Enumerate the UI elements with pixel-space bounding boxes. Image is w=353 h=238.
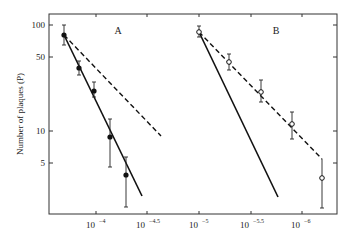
data-point [320,176,325,181]
y-axis-title: Number of plaques (P) [15,73,25,155]
data-point [91,88,96,93]
x-tick-1e-5: 10 −5 [189,218,208,230]
svg-text:−5: −5 [202,218,208,224]
panel-b-solid-line [199,32,278,197]
panel-b-points [197,30,325,181]
data-point [259,90,264,95]
svg-text:10: 10 [136,220,146,230]
svg-text:10: 10 [240,220,250,230]
data-point [197,30,202,35]
panel-a-solid-line [64,35,142,196]
plot-frame [49,14,337,214]
svg-text:10: 10 [86,220,96,230]
data-point [76,65,81,70]
panel-a-points [61,32,128,177]
data-point [107,134,112,139]
data-point [227,60,232,65]
y-tick-5: 5 [41,158,46,168]
data-point [123,172,128,177]
plaque-dilution-chart: 100 50 10 5 Number of plaques (P) 10 −4 … [0,0,353,238]
svg-text:10: 10 [189,220,199,230]
svg-text:−4.5: −4.5 [149,218,160,224]
data-point [61,32,66,37]
x-tick-1e-6: 10 −6 [291,218,310,230]
svg-text:−6: −6 [304,218,310,224]
x-tick-1e-5.5: 10 −5.5 [240,218,264,230]
panel-a-series [61,25,161,207]
y-tick-10: 10 [36,126,46,136]
panel-a-label: A [114,25,122,36]
x-tick-1e-4.5: 10 −4.5 [136,218,160,230]
svg-text:−4: −4 [99,218,105,224]
y-tick-50: 50 [36,52,46,62]
panel-b-series [197,26,325,208]
data-point [290,122,295,127]
panel-a-dashed-line [64,35,161,136]
svg-text:10: 10 [291,220,301,230]
y-tick-100: 100 [32,20,46,30]
x-tick-1e-4: 10 −4 [86,218,105,230]
svg-text:−5.5: −5.5 [253,218,264,224]
panel-b-error-bars [197,26,324,208]
panel-b-dashed-line [199,32,322,159]
panel-b-label: B [273,25,280,36]
